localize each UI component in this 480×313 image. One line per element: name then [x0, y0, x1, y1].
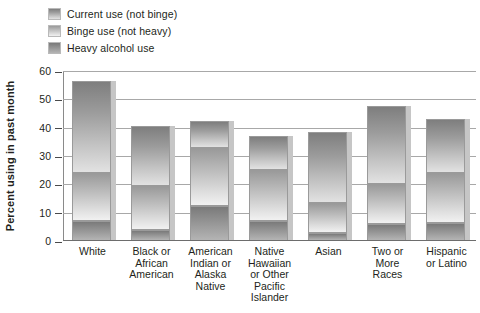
bar-segment-binge-use[interactable] — [72, 173, 111, 221]
legend-item-heavy-use: Heavy alcohol use — [48, 40, 308, 55]
y-tick-label: 30 — [29, 150, 63, 162]
legend-label-heavy-use: Heavy alcohol use — [67, 42, 155, 54]
bar-stack[interactable] — [72, 81, 111, 241]
legend-swatch-binge-use-icon — [48, 25, 61, 37]
x-axis-label: AmericanIndian orAlaskaNative — [181, 246, 240, 292]
bar-stack[interactable] — [367, 106, 406, 241]
bar-stack[interactable] — [190, 121, 229, 241]
y-tick-label: 50 — [29, 93, 63, 105]
bar-segment-heavy-use[interactable] — [367, 224, 406, 241]
bar-group — [131, 71, 170, 241]
x-axis-label: NativeHawaiianor OtherPacificIslander — [240, 246, 299, 304]
bar-segment-current-use[interactable] — [190, 121, 229, 148]
bar-stack[interactable] — [426, 119, 465, 241]
x-axis-label: Hispanicor Latino — [417, 246, 476, 269]
bar-segment-heavy-use[interactable] — [190, 206, 229, 241]
legend-label-current-use: Current use (not binge) — [67, 8, 177, 20]
chart-container: Current use (not binge) Binge use (not h… — [0, 0, 480, 313]
legend-swatch-heavy-use-icon — [48, 42, 61, 54]
legend-swatch-current-use-icon — [48, 8, 61, 20]
bar-segment-binge-use[interactable] — [367, 184, 406, 224]
bar-segment-heavy-use[interactable] — [426, 223, 465, 241]
bar-segment-binge-use[interactable] — [190, 148, 229, 206]
bar-group — [426, 71, 465, 241]
bar-stack[interactable] — [308, 132, 347, 241]
x-axis-labels: WhiteBlack orAfricanAmericanAmericanIndi… — [63, 246, 476, 312]
y-axis-title-text: Percent using in past month — [4, 81, 16, 232]
bar-segment-current-use[interactable] — [367, 106, 406, 184]
bar-segment-current-use[interactable] — [249, 136, 288, 170]
x-axis-label: Two orMoreRaces — [358, 246, 417, 281]
bar-segment-current-use[interactable] — [308, 132, 347, 203]
x-axis-label: Asian — [299, 246, 358, 258]
y-tick-label: 0 — [29, 235, 63, 247]
bar-segment-binge-use[interactable] — [308, 203, 347, 233]
y-tick-label: 40 — [29, 122, 63, 134]
y-tick-label: 20 — [29, 178, 63, 190]
bar-segment-current-use[interactable] — [426, 119, 465, 173]
legend-item-current-use: Current use (not binge) — [48, 6, 308, 21]
plot-area: 0102030405060 — [63, 71, 476, 241]
y-tick-label: 60 — [29, 65, 63, 77]
bar-group — [249, 71, 288, 241]
bar-segment-heavy-use[interactable] — [249, 221, 288, 241]
bar-stack[interactable] — [249, 136, 288, 241]
bar-segment-current-use[interactable] — [131, 126, 170, 186]
x-axis-line — [63, 240, 476, 241]
legend-label-binge-use: Binge use (not heavy) — [67, 25, 171, 37]
chart-legend: Current use (not binge) Binge use (not h… — [48, 6, 308, 57]
bar-group — [367, 71, 406, 241]
x-axis-label: White — [63, 246, 122, 258]
bar-segment-heavy-use[interactable] — [72, 221, 111, 241]
bar-stack[interactable] — [131, 126, 170, 241]
y-tick-label: 10 — [29, 207, 63, 219]
legend-item-binge-use: Binge use (not heavy) — [48, 23, 308, 38]
bar-segment-binge-use[interactable] — [426, 173, 465, 223]
bar-group — [308, 71, 347, 241]
bar-group — [190, 71, 229, 241]
x-axis-label: Black orAfricanAmerican — [122, 246, 181, 281]
bar-segment-current-use[interactable] — [72, 81, 111, 173]
y-axis-title: Percent using in past month — [2, 71, 18, 241]
bar-segment-binge-use[interactable] — [249, 170, 288, 221]
bar-segment-binge-use[interactable] — [131, 186, 170, 230]
bar-series — [63, 71, 476, 241]
bar-group — [72, 71, 111, 241]
